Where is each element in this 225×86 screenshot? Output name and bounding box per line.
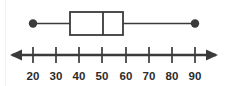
box-plot-figure: 20 30 40 50 60 70 80 90 — [0, 0, 225, 86]
axis-tick-label: 20 — [27, 70, 40, 82]
minimum-whisker-dot — [29, 19, 37, 27]
axis-tick-label: 60 — [120, 70, 133, 82]
axis-left-arrow-icon — [10, 50, 22, 61]
axis-right-arrow-icon — [206, 50, 218, 61]
box-plot-svg: 20 30 40 50 60 70 80 90 — [0, 0, 225, 86]
maximum-whisker-dot — [191, 19, 199, 27]
axis-tick-label: 80 — [166, 70, 179, 82]
number-line-axis: 20 30 40 50 60 70 80 90 — [10, 47, 218, 82]
axis-tick-labels: 20 30 40 50 60 70 80 90 — [27, 70, 202, 82]
interquartile-box — [70, 12, 123, 35]
axis-tick-label: 90 — [189, 70, 202, 82]
axis-tick-label: 70 — [143, 70, 156, 82]
box-plot-group — [29, 12, 199, 35]
axis-tick-label: 30 — [50, 70, 63, 82]
axis-tick-label: 40 — [73, 70, 86, 82]
axis-tick-label: 50 — [96, 70, 109, 82]
